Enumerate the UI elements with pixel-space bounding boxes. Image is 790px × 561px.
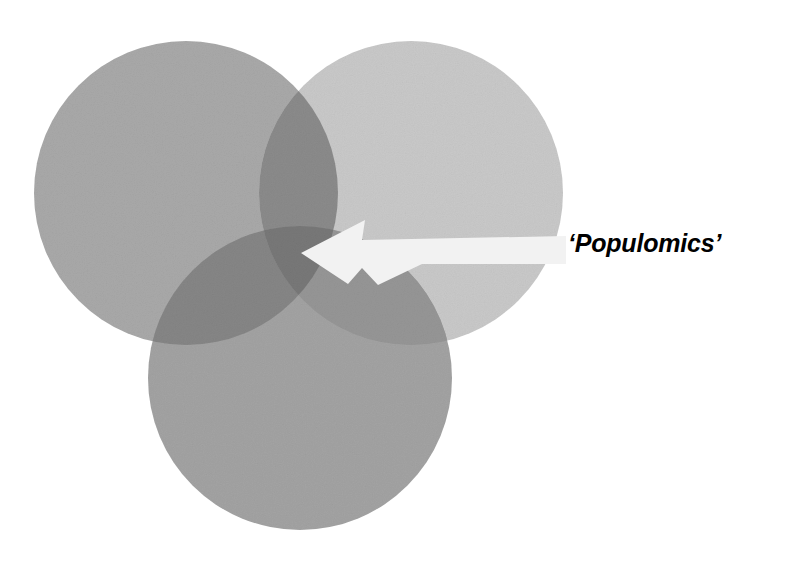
venn-diagram-figure: ‘Populomics’: [0, 0, 790, 561]
venn-sets-group: [34, 41, 563, 530]
venn-diagram-canvas: [0, 0, 790, 561]
populomics-label: ‘Populomics’: [568, 228, 721, 258]
